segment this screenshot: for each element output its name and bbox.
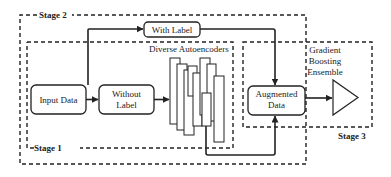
svg-text:Without: Without — [112, 89, 142, 99]
stacking-pipeline-diagram: Stage 2 Stage 1 Stage 3 Input Data Witho… — [0, 0, 391, 177]
input-data-node: Input Data — [31, 85, 86, 114]
svg-text:Label: Label — [116, 100, 137, 110]
svg-text:Input Data: Input Data — [39, 95, 77, 105]
svg-text:Gradient: Gradient — [309, 45, 341, 55]
stage-2-border — [20, 15, 36, 79]
stage-2-label: Stage 2 — [39, 10, 67, 20]
without-label-node: Without Label — [99, 85, 154, 114]
stage-1-label: Stage 1 — [34, 143, 62, 153]
svg-text:With Label: With Label — [152, 25, 193, 35]
stage-3-label: Stage 3 — [338, 131, 366, 141]
autoencoder-stack — [170, 58, 224, 142]
autoencoders-label: Diverse Autoencoders — [149, 44, 229, 54]
arrow-input-to-with-label — [88, 29, 143, 85]
triangle-icon — [333, 80, 358, 115]
gradient-boosting-ensemble-node: Gradient Boosting Ensemble — [307, 45, 358, 115]
svg-text:Ensemble: Ensemble — [307, 67, 343, 77]
svg-text:Augmented: Augmented — [256, 89, 298, 99]
svg-text:Data: Data — [268, 100, 285, 110]
with-label-node: With Label — [144, 22, 200, 37]
augmented-data-node: Augmented Data — [248, 86, 305, 115]
svg-text:Boosting: Boosting — [309, 56, 342, 66]
